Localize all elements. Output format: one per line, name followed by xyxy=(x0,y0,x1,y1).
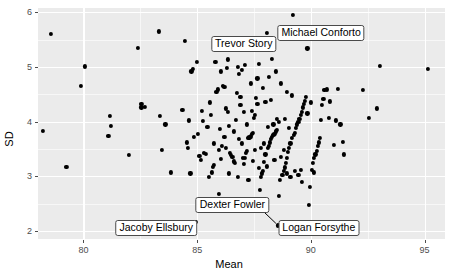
data-point xyxy=(219,69,223,73)
data-point xyxy=(180,108,184,112)
data-point xyxy=(287,126,291,130)
data-point xyxy=(127,153,131,157)
y-axis-tick-label: 5 xyxy=(27,62,32,72)
data-point xyxy=(342,152,346,156)
annotation-label: Trevor Story xyxy=(211,36,276,52)
data-point xyxy=(283,117,287,121)
data-point xyxy=(289,93,293,97)
data-point xyxy=(262,141,266,145)
gridline-major-horizontal xyxy=(38,231,445,232)
data-point xyxy=(253,148,257,152)
data-point xyxy=(204,152,208,156)
data-point xyxy=(255,101,259,105)
data-point xyxy=(320,103,324,107)
data-point xyxy=(305,111,309,115)
data-point xyxy=(245,122,249,126)
data-point xyxy=(286,150,290,154)
data-point xyxy=(226,57,230,61)
data-point xyxy=(288,141,292,145)
data-point xyxy=(106,134,110,138)
data-point xyxy=(267,144,271,148)
data-point xyxy=(263,100,267,104)
data-point xyxy=(239,141,243,145)
data-point xyxy=(109,124,113,128)
data-point xyxy=(278,178,282,182)
data-point xyxy=(375,106,379,110)
scatter-plot-figure: 2345680859095 SD Mean Trevor StoryMichae… xyxy=(0,0,458,277)
data-point xyxy=(294,126,298,130)
annotation-label: Logan Forsythe xyxy=(278,220,359,236)
data-point xyxy=(217,148,221,152)
data-point xyxy=(196,132,200,136)
gridline-major-vertical xyxy=(83,8,84,239)
data-point xyxy=(233,161,237,165)
data-point xyxy=(284,160,288,164)
data-point xyxy=(255,76,259,80)
data-point xyxy=(143,105,147,109)
data-point xyxy=(328,99,332,103)
data-point xyxy=(212,163,216,167)
x-axis-tick-label: 85 xyxy=(192,245,202,255)
y-axis-tick-label: 3 xyxy=(27,171,32,181)
y-axis-title: SD xyxy=(3,131,15,146)
data-point xyxy=(293,130,297,134)
y-axis-tick-label: 2 xyxy=(27,226,32,236)
data-point xyxy=(313,152,317,156)
data-point xyxy=(213,59,217,63)
data-point xyxy=(245,148,249,152)
data-point xyxy=(256,166,260,170)
y-axis-tick-label: 4 xyxy=(27,117,32,127)
data-point xyxy=(249,81,253,85)
data-point xyxy=(192,135,196,139)
y-axis-tick-label: 6 xyxy=(27,7,32,17)
data-point xyxy=(169,170,173,174)
data-point xyxy=(256,62,260,66)
data-point xyxy=(231,129,235,133)
data-point xyxy=(208,100,212,104)
data-point xyxy=(195,60,199,64)
gridline-minor-vertical xyxy=(368,8,369,239)
data-point xyxy=(238,103,242,107)
data-point xyxy=(283,165,287,169)
data-point xyxy=(158,114,162,118)
x-axis-title: Mean xyxy=(0,258,458,270)
data-point xyxy=(312,156,316,160)
data-point xyxy=(40,129,44,133)
data-point xyxy=(264,30,268,34)
data-point xyxy=(275,128,279,132)
gridline-major-horizontal xyxy=(38,12,445,13)
data-point xyxy=(242,162,246,166)
data-point xyxy=(160,148,164,152)
data-point xyxy=(367,116,371,120)
data-point xyxy=(222,135,226,139)
data-point xyxy=(217,192,221,196)
gridline-major-horizontal xyxy=(38,176,445,177)
data-point xyxy=(216,87,220,91)
x-axis-tick-label: 80 xyxy=(78,245,88,255)
x-axis-tick-mark xyxy=(83,240,84,243)
data-point xyxy=(361,88,365,92)
data-point xyxy=(279,155,283,159)
y-axis-tick-mark xyxy=(35,67,38,68)
data-point xyxy=(246,178,250,182)
data-point xyxy=(327,116,331,120)
data-point xyxy=(258,188,262,192)
x-axis-tick-mark xyxy=(311,240,312,243)
data-point xyxy=(277,119,281,123)
data-point xyxy=(64,165,68,169)
data-point xyxy=(108,113,112,117)
data-point xyxy=(238,95,242,99)
data-point xyxy=(317,140,321,144)
x-axis-tick-mark xyxy=(197,240,198,243)
data-point xyxy=(226,110,230,114)
data-point xyxy=(212,141,216,145)
data-point xyxy=(261,169,265,173)
data-point xyxy=(191,67,195,71)
data-point xyxy=(264,164,268,168)
data-point xyxy=(325,87,329,91)
gridline-major-horizontal xyxy=(38,122,445,123)
x-axis-tick-label: 90 xyxy=(306,245,316,255)
y-axis-tick-mark xyxy=(35,122,38,123)
data-point xyxy=(210,170,214,174)
data-point xyxy=(254,95,258,99)
